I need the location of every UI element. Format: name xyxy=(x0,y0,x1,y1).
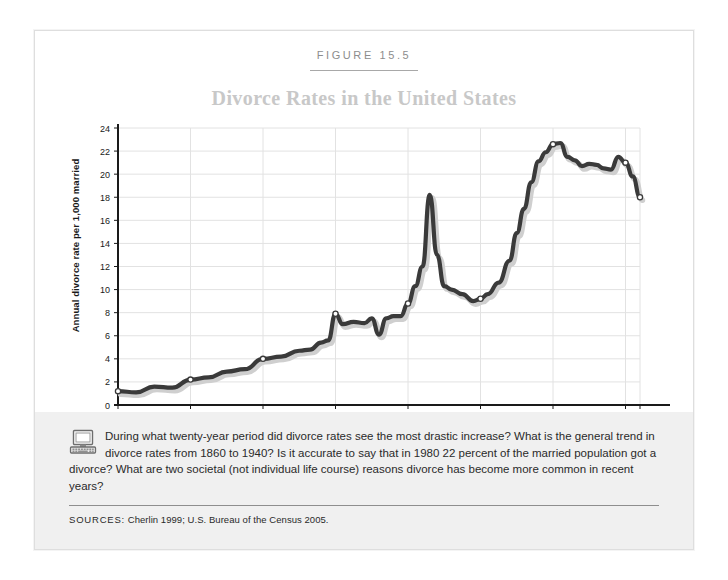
gridlines xyxy=(118,128,640,405)
question-body: During what twenty-year period did divor… xyxy=(69,428,659,494)
svg-text:18: 18 xyxy=(100,193,110,203)
sources-divider xyxy=(69,505,659,506)
svg-text:22: 22 xyxy=(100,147,110,157)
sources-label: SOURCES: xyxy=(69,514,125,525)
svg-text:4: 4 xyxy=(105,354,110,364)
svg-text:2: 2 xyxy=(105,377,110,387)
series-markers xyxy=(115,142,642,394)
svg-text:14: 14 xyxy=(100,239,110,249)
figure-header: FIGURE 15.5 Divorce Rates in the United … xyxy=(35,31,693,110)
sources-text: Cherlin 1999; U.S. Bureau of the Census … xyxy=(125,514,329,525)
series-line xyxy=(118,143,640,392)
header-divider xyxy=(310,70,418,71)
svg-text:16: 16 xyxy=(100,216,110,226)
divorce-rate-line-chart: 024681012141618202224 186018801900192019… xyxy=(35,122,695,442)
svg-text:0: 0 xyxy=(105,401,110,411)
figure-number: FIGURE 15.5 xyxy=(35,49,693,61)
figure-title: Divorce Rates in the United States xyxy=(35,87,693,110)
svg-text:20: 20 xyxy=(100,170,110,180)
figure-container: FIGURE 15.5 Divorce Rates in the United … xyxy=(34,30,694,550)
svg-text:24: 24 xyxy=(100,124,110,134)
sources-line: SOURCES: Cherlin 1999; U.S. Bureau of th… xyxy=(69,514,659,525)
svg-text:10: 10 xyxy=(100,285,110,295)
question-panel: During what twenty-year period did divor… xyxy=(35,412,693,549)
chart-area: Annual divorce rate per 1,000 married 02… xyxy=(35,122,695,442)
svg-text:8: 8 xyxy=(105,308,110,318)
y-axis-title: Annual divorce rate per 1,000 married xyxy=(70,146,81,346)
series-shadow xyxy=(121,146,643,395)
svg-text:6: 6 xyxy=(105,331,110,341)
svg-text:12: 12 xyxy=(100,262,110,272)
computer-icon xyxy=(69,429,97,455)
question-text: During what twenty-year period did divor… xyxy=(69,430,656,492)
y-tick-labels: 024681012141618202224 xyxy=(100,124,110,411)
